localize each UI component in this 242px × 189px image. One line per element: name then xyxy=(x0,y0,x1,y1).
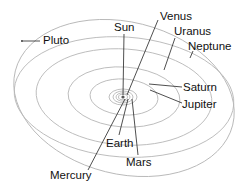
label-mars: Mars xyxy=(126,157,152,169)
label-neptune: Neptune xyxy=(188,41,231,53)
pluto-dot-icon xyxy=(21,40,23,42)
sun-icon xyxy=(121,95,124,98)
label-mercury: Mercury xyxy=(50,170,92,182)
solar-system-diagram: Pluto Sun Venus Uranus Neptune Saturn Ju… xyxy=(0,0,242,189)
label-sun: Sun xyxy=(114,22,134,34)
label-venus: Venus xyxy=(160,11,192,23)
leader-jupiter xyxy=(150,90,182,103)
label-pluto: Pluto xyxy=(43,35,69,47)
leader-saturn xyxy=(149,84,182,87)
leader-sun xyxy=(123,34,124,95)
leader-earth xyxy=(119,99,128,135)
label-uranus: Uranus xyxy=(174,26,211,38)
label-earth: Earth xyxy=(106,138,134,150)
label-saturn: Saturn xyxy=(183,82,217,94)
label-jupiter: Jupiter xyxy=(182,99,217,111)
